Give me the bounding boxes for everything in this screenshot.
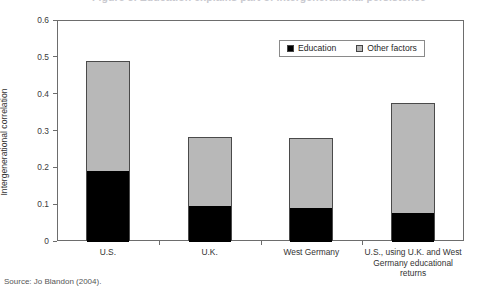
chart-legend: Education Other factors xyxy=(279,40,425,57)
legend-swatch-other-factors-icon xyxy=(356,45,363,52)
y-tick-label: 0.1 xyxy=(37,198,49,210)
x-axis-label-line: U.S. xyxy=(57,247,159,258)
legend-item-other-factors: Other factors xyxy=(356,43,417,53)
x-axis-label-line: returns xyxy=(362,268,464,279)
y-tick-6: 0.6 xyxy=(0,14,57,26)
y-tick-1: 0.1 xyxy=(0,198,57,210)
y-tick-0: 0 xyxy=(0,235,57,247)
bar-segment-education xyxy=(392,213,434,242)
bar-segment-other-factors xyxy=(392,104,434,213)
figure-title: Figure 3. Education explains part of int… xyxy=(92,0,426,3)
legend-item-education: Education xyxy=(287,43,336,53)
bar-segment-other-factors xyxy=(189,138,231,206)
bar-segment-education xyxy=(87,171,129,242)
y-tick-3: 0.3 xyxy=(0,125,57,137)
stacked-bar xyxy=(86,61,130,241)
y-tick-label: 0.3 xyxy=(37,125,49,137)
stacked-bar xyxy=(289,138,333,241)
bar-segment-education xyxy=(189,206,231,242)
x-axis-label-line: U.K. xyxy=(159,247,261,258)
stacked-bar xyxy=(188,137,232,241)
y-tick-label: 0.5 xyxy=(37,51,49,63)
y-tick-4: 0.4 xyxy=(0,88,57,100)
cropped-title-strip: Figure 3. Education explains part of int… xyxy=(0,0,477,10)
bar-segment-education xyxy=(290,208,332,242)
bar-segment-other-factors xyxy=(290,139,332,208)
x-axis-label-line: Germany educational xyxy=(362,258,464,269)
stacked-bar xyxy=(391,103,435,241)
legend-label-other-factors: Other factors xyxy=(367,43,417,53)
y-tick-label: 0.4 xyxy=(37,88,49,100)
x-axis-label-0: U.S. xyxy=(57,247,159,258)
legend-swatch-education-icon xyxy=(287,45,294,52)
bar-segment-other-factors xyxy=(87,62,129,171)
y-tick-5: 0.5 xyxy=(0,51,57,63)
legend-label-education: Education xyxy=(298,43,336,53)
y-tick-2: 0.2 xyxy=(0,161,57,173)
x-axis-label-line: West Germany xyxy=(261,247,363,258)
y-tick-label: 0 xyxy=(44,235,49,247)
x-axis-label-2: West Germany xyxy=(261,247,363,258)
x-tick-2 xyxy=(362,241,363,245)
source-note: Source: Jo Blandon (2004). xyxy=(4,277,101,286)
bar-group xyxy=(188,20,232,241)
x-axis-label-1: U.K. xyxy=(159,247,261,258)
x-tick-1 xyxy=(261,241,262,245)
x-axis-label-3: U.S., using U.K. and WestGermany educati… xyxy=(362,247,464,279)
x-tick-0 xyxy=(159,241,160,245)
figure-container: Figure 3. Education explains part of int… xyxy=(0,0,477,300)
bar-group xyxy=(86,20,130,241)
y-tick-label: 0.6 xyxy=(37,14,49,26)
x-axis-label-line: U.S., using U.K. and West xyxy=(362,247,464,258)
y-tick-label: 0.2 xyxy=(37,161,49,173)
